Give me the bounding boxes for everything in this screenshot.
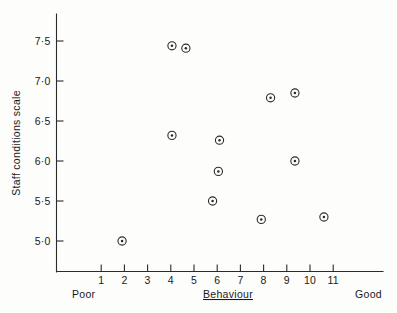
y-tick-label: 5·5 (35, 195, 51, 207)
x-tick-label: 5 (191, 274, 197, 286)
x-tick-label: 10 (304, 274, 316, 286)
x-tick-label: 11 (328, 274, 339, 286)
x-tick-label: 1 (98, 274, 104, 286)
data-point-center (323, 216, 326, 219)
data-point (214, 167, 222, 175)
data-point-center (260, 218, 263, 221)
x-tick-label: 3 (145, 274, 151, 286)
data-point-center (218, 139, 221, 142)
x-axis-low-label: Poor (72, 288, 96, 300)
data-point (320, 213, 328, 221)
x-axis-title: Behaviour (203, 288, 253, 300)
data-point-center (294, 160, 297, 163)
data-point (168, 131, 176, 139)
y-tick-label: 5·0 (35, 235, 51, 247)
data-point (257, 215, 265, 223)
data-point (291, 157, 299, 165)
data-point (182, 44, 190, 52)
data-point (118, 237, 126, 245)
x-axis-ticks: 1234567891011 (98, 265, 339, 286)
x-tick-label: 2 (121, 274, 127, 286)
x-axis-high-label: Good (355, 288, 382, 300)
y-axis-ticks: 5·05·56·06·57·07·5 (35, 35, 64, 247)
data-point (215, 136, 223, 144)
data-points-layer (118, 42, 328, 245)
y-axis-title: Staff conditions scale (10, 90, 22, 196)
data-point-center (294, 92, 297, 95)
plot-canvas: 5·05·56·06·57·07·5 1234567891011 Staff c… (0, 0, 397, 313)
data-point-center (185, 47, 188, 50)
data-point-center (217, 170, 220, 173)
y-tick-label: 7·0 (35, 75, 51, 87)
scatter-plot-figure: 5·05·56·06·57·07·5 1234567891011 Staff c… (0, 0, 397, 313)
x-tick-label: 6 (214, 274, 220, 286)
data-point-center (211, 200, 214, 203)
data-point (291, 89, 299, 97)
x-tick-label: 7 (237, 274, 243, 286)
y-tick-label: 6·5 (35, 115, 51, 127)
data-point (266, 94, 274, 102)
data-point (168, 42, 176, 50)
x-tick-label: 8 (261, 274, 267, 286)
data-point-center (171, 45, 174, 48)
data-point-center (121, 240, 124, 243)
x-tick-label: 9 (284, 274, 290, 286)
x-tick-label: 4 (168, 274, 174, 286)
y-tick-label: 6·0 (35, 155, 51, 167)
data-point-center (171, 134, 174, 137)
y-tick-label: 7·5 (35, 35, 51, 47)
data-point-center (269, 97, 272, 100)
data-point (208, 197, 216, 205)
